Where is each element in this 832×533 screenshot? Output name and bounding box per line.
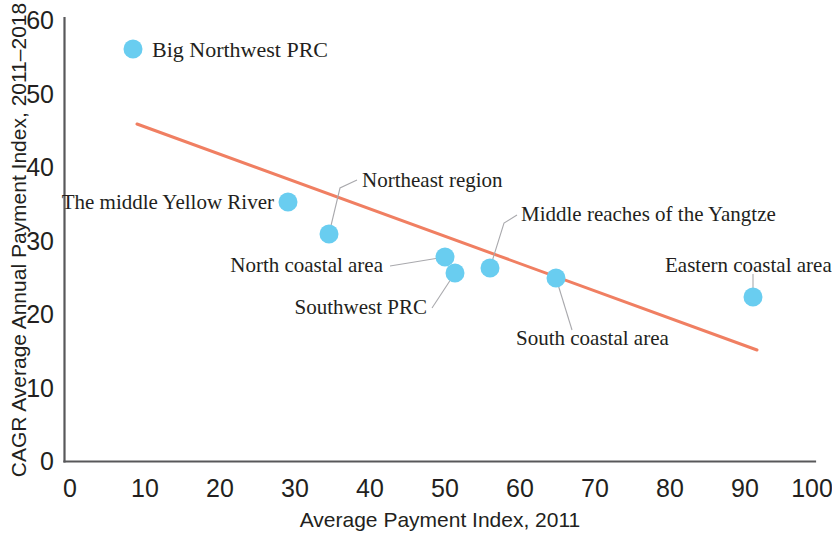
point-label-south-coastal-area: South coastal area: [516, 326, 669, 350]
point-label-eastern-coastal-area: Eastern coastal area: [665, 253, 832, 277]
data-point-middle-reaches-of-the-yangtze[interactable]: [481, 259, 500, 278]
x-tick-label: 70: [581, 474, 609, 502]
point-label-north-coastal-area: North coastal area: [230, 253, 383, 277]
y-tick-label: 60: [26, 6, 54, 34]
x-tick-label: 90: [731, 474, 759, 502]
legend-label: Big Northwest PRC: [152, 37, 328, 62]
y-tick-label: 20: [26, 300, 54, 328]
data-point-southwest-prc[interactable]: [446, 264, 465, 283]
x-tick-label: 30: [281, 474, 309, 502]
point-label-middle-reaches-of-the-yangtze: Middle reaches of the Yangtze: [521, 202, 776, 226]
data-point-northeast-region[interactable]: [320, 225, 339, 244]
x-tick-label: 50: [431, 474, 459, 502]
point-label-the-middle-yellow-river: The middle Yellow River: [62, 190, 274, 214]
y-tick-label: 0: [40, 447, 54, 475]
data-point-eastern-coastal-area[interactable]: [744, 288, 763, 307]
y-tick-label: 10: [26, 374, 54, 402]
y-tick-label: 40: [26, 153, 54, 181]
x-tick-label: 100: [791, 474, 832, 502]
x-tick-label: 20: [206, 474, 234, 502]
x-tick-label: 10: [131, 474, 159, 502]
scatter-chart: 0 10 20 30 40 50 60 0 10 20 30 40 50 60 …: [0, 0, 832, 533]
data-point-north-coastal-area[interactable]: [436, 248, 455, 267]
point-label-southwest-prc: Southwest PRC: [295, 295, 427, 319]
x-tick-label: 80: [656, 474, 684, 502]
x-tick-label: 60: [506, 474, 534, 502]
x-tick-label: 0: [63, 474, 77, 502]
trendline: [137, 124, 757, 350]
x-tick-label: 40: [356, 474, 384, 502]
data-point-the-middle-yellow-river[interactable]: [279, 193, 298, 212]
legend-marker-icon: [124, 40, 143, 59]
y-axis-title: CAGR Average Annual Payment Index, 2011–…: [7, 3, 30, 477]
y-tick-label: 30: [26, 227, 54, 255]
data-point-south-coastal-area[interactable]: [547, 269, 566, 288]
point-label-northeast-region: Northeast region: [362, 168, 503, 192]
x-axis-title: Average Payment Index, 2011: [300, 508, 581, 531]
y-tick-label: 50: [26, 80, 54, 108]
